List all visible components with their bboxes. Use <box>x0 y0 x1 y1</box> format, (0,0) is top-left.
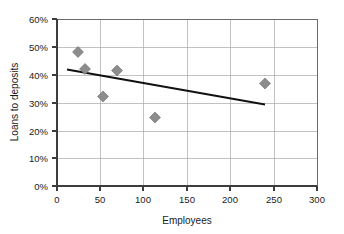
x-tick-label: 150 <box>179 194 195 205</box>
x-tick-label: 250 <box>266 194 282 205</box>
x-tick-label: 300 <box>309 194 325 205</box>
chart-container: 60% 50% 40% 30% 20% 10% 0% 0 50 100 150 … <box>0 0 344 234</box>
y-tick-label: 0% <box>34 181 48 192</box>
y-tick-label: 60% <box>29 14 49 25</box>
chart-background <box>0 0 344 234</box>
y-tick-label: 10% <box>29 153 49 164</box>
y-tick-label: 50% <box>29 42 49 53</box>
y-tick-label: 20% <box>29 126 49 137</box>
x-tick-label: 100 <box>135 194 151 205</box>
x-tick-label: 50 <box>95 194 106 205</box>
x-tick-label: 0 <box>54 194 59 205</box>
y-tick-label: 40% <box>29 70 49 81</box>
x-axis-title: Employees <box>162 215 211 226</box>
y-tick-label: 30% <box>29 98 49 109</box>
x-tick-label: 200 <box>222 194 238 205</box>
y-axis-title: Loans to deposits <box>9 63 20 141</box>
scatter-plot: 60% 50% 40% 30% 20% 10% 0% 0 50 100 150 … <box>0 0 344 234</box>
